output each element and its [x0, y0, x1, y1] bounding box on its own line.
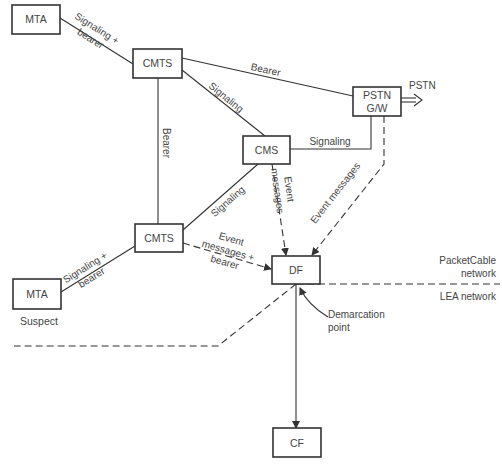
edge-cms-to-cmts-bottom	[183, 164, 258, 230]
packetcable-surveillance-diagram: MTA CMTS CMS PSTN G/W CMTS MTA Suspect D…	[0, 0, 502, 466]
suspect-caption: Suspect	[20, 315, 58, 327]
label-lea-network: LEA network	[440, 291, 497, 302]
label-cms-df-event: Event messages	[269, 166, 298, 214]
svg-text:MTA: MTA	[26, 288, 47, 300]
label-packetcable-network-line1: PacketCable	[439, 255, 496, 266]
label-demarcation-line2: point	[328, 322, 350, 333]
svg-text:PSTN: PSTN	[363, 89, 391, 101]
label-cms-cmts-signaling: Signaling	[209, 184, 247, 219]
svg-text:CF: CF	[290, 437, 304, 449]
node-cmts-bottom: CMTS	[135, 224, 183, 252]
node-cf: CF	[273, 428, 321, 457]
label-mta-top-cmts: Signaling + bearer	[67, 10, 122, 56]
svg-text:CMTS: CMTS	[143, 57, 173, 69]
label-pstn-out: PSTN	[409, 80, 436, 91]
svg-text:messages: messages	[269, 167, 286, 214]
label-packetcable-network-line2: network	[461, 268, 497, 279]
svg-text:DF: DF	[289, 264, 303, 276]
node-mta-top: MTA	[12, 5, 60, 34]
label-cmts-pstn-bearer: Bearer	[250, 61, 282, 78]
node-df: DF	[272, 256, 320, 284]
svg-text:CMTS: CMTS	[144, 232, 174, 244]
label-cmts-cms-signaling: Signaling	[207, 80, 246, 114]
node-pstn-gw: PSTN G/W	[353, 87, 401, 116]
label-demarcation-line1: Demarcation	[328, 309, 385, 320]
label-cmts-df-event: Event messages + bearer	[197, 226, 259, 275]
node-mta-bottom: MTA	[13, 279, 61, 309]
node-cms: CMS	[243, 136, 290, 164]
edge-cmts-top-to-cms	[182, 70, 265, 136]
label-mta-bottom-cmts: Signaling + bearer	[61, 249, 116, 295]
label-cmts-cmts-bearer: Bearer	[161, 128, 172, 159]
label-pstn-df-event: Event messages	[308, 160, 362, 225]
label-cms-pstn-signaling: Signaling	[309, 136, 350, 147]
demarcation-pointer	[300, 288, 328, 317]
svg-text:MTA: MTA	[25, 13, 46, 25]
pstn-out-arrow	[401, 94, 422, 106]
svg-text:G/W: G/W	[367, 102, 388, 114]
svg-text:CMS: CMS	[255, 144, 278, 156]
node-cmts-top: CMTS	[133, 49, 182, 78]
